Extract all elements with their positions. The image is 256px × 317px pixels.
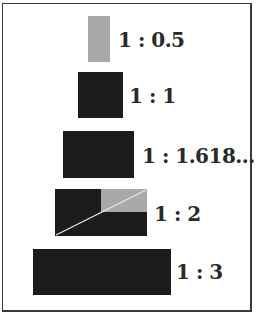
- label-ratio-3: 1 : 3: [176, 262, 223, 282]
- label-ratio-2: 1 : 2: [154, 204, 201, 224]
- rect-ratio-3: [33, 249, 171, 295]
